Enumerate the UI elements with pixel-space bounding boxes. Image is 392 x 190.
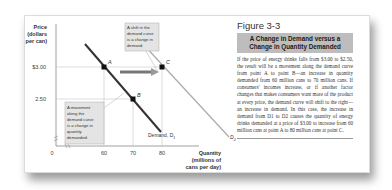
- d1-label: Demand, D1: [148, 132, 175, 140]
- callout-shift-line4: demand.: [127, 43, 143, 48]
- x-tick-80: 80: [159, 150, 165, 156]
- callout-move-leader: [104, 93, 124, 108]
- x-tick-70: 70: [130, 150, 136, 156]
- callout-move-line3: demand curve: [67, 117, 94, 122]
- y-tick-250: 2.50: [35, 96, 46, 102]
- d2-label: D2: [230, 134, 236, 142]
- point-c: [160, 65, 165, 70]
- y-label-line3: per can): [26, 38, 48, 44]
- point-b: [131, 97, 136, 102]
- demand-curve-d2: [143, 44, 229, 137]
- callout-move-line6: demanded.: [67, 135, 88, 140]
- callout-move-line5: quantity: [67, 129, 83, 134]
- callout-shift-line3: is a change in: [127, 37, 154, 42]
- x-tick-0: 0: [50, 150, 53, 156]
- callout-move-line4: is a change in: [67, 123, 94, 128]
- y-tick-300: $3.00: [32, 64, 46, 70]
- point-a-label: A: [107, 59, 112, 65]
- x-tick-60: 60: [101, 150, 107, 156]
- y-label-line2: (dollars: [27, 31, 47, 37]
- y-label-line1: Price: [34, 24, 47, 30]
- callout-shift-line2: demand curve: [127, 31, 154, 36]
- figure-card: A B C Price (dollars per can) $3.00 2.50…: [24, 15, 370, 173]
- figure-caption: Figure 3-3 A Change in Demand versus a C…: [237, 20, 353, 139]
- point-b-label: B: [137, 92, 141, 98]
- figure-heading: A Change in Demand versus a Change in Qu…: [237, 33, 353, 53]
- demand-chart: A B C Price (dollars per can) $3.00 2.50…: [25, 16, 255, 174]
- figure-number: Figure 3-3: [237, 20, 353, 31]
- callout-move-line1: A movement: [67, 105, 91, 110]
- callout-shift-line1: A shift in the: [127, 25, 150, 30]
- figure-body-text: If the price of energy drinks falls from…: [237, 56, 353, 139]
- x-label-line2: (millions of: [192, 157, 222, 163]
- callout-move-line2: along the: [67, 111, 85, 116]
- x-label-line3: cans per day): [186, 164, 222, 170]
- x-label-line1: Quantity: [199, 150, 222, 156]
- point-a: [102, 65, 107, 70]
- point-c-label: C: [166, 59, 170, 65]
